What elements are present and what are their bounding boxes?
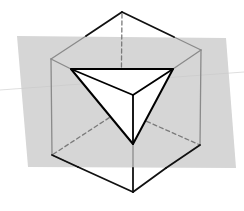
cube-plane-diagram	[0, 0, 244, 211]
diagram-canvas	[0, 0, 244, 211]
